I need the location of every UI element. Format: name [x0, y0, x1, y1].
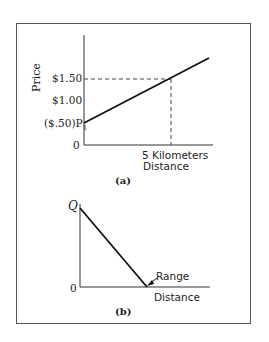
- a-tick-1-00: $1.00: [52, 94, 82, 106]
- a-x-axis-label: Distance: [143, 160, 189, 172]
- a-tick-p1: ($.50)P1: [44, 117, 87, 132]
- b-y-axis-label: Q: [68, 199, 78, 213]
- diagram-graphics: [0, 0, 269, 342]
- a-caption: (a): [115, 175, 131, 186]
- a-price-line: [84, 58, 209, 123]
- b-demand-line: [80, 208, 147, 287]
- a-y-axis-label: Price: [30, 63, 43, 92]
- a-tick-1-50: $1.50: [52, 72, 82, 84]
- b-range-label: Range: [156, 270, 189, 282]
- b-x-axis-label: Distance: [154, 291, 200, 303]
- a-tick-0: 0: [73, 139, 80, 151]
- b-origin: 0: [70, 282, 77, 294]
- a-tick-p1-subscript: 1: [83, 124, 87, 132]
- b-caption: (b): [115, 306, 131, 317]
- a-tick-p1-text: ($.50)P: [44, 117, 83, 129]
